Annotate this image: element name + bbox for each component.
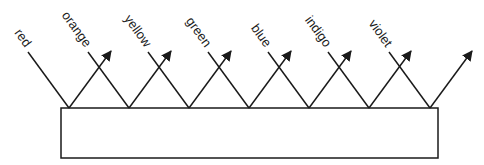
reflected-ray-arrow-orange <box>129 51 171 108</box>
incident-ray-green <box>208 52 249 108</box>
labels-group: redorangeyellowgreenblueindigoviolet <box>12 8 396 50</box>
reflection-diagram: redorangeyellowgreenblueindigoviolet <box>0 0 484 165</box>
incident-ray-blue <box>268 52 309 108</box>
ray-label-yellow: yellow <box>121 12 155 51</box>
reflected-ray-arrow-violet <box>430 51 472 108</box>
rays-group <box>28 51 472 108</box>
incident-ray-orange <box>88 52 129 108</box>
ray-label-green: green <box>183 14 215 50</box>
incident-ray-indigo <box>328 52 369 108</box>
reflected-ray-arrow-red <box>69 51 111 108</box>
reflected-ray-arrow-blue <box>309 51 351 108</box>
reflected-ray-arrow-green <box>249 51 291 108</box>
ray-label-violet: violet <box>366 16 396 50</box>
incident-ray-violet <box>389 52 430 108</box>
incident-ray-yellow <box>148 52 189 108</box>
reflected-ray-arrow-indigo <box>369 51 411 108</box>
reflecting-surface <box>61 108 438 158</box>
ray-label-orange: orange <box>59 8 95 50</box>
ray-label-red: red <box>12 26 35 50</box>
ray-label-blue: blue <box>248 21 275 50</box>
reflected-ray-arrow-yellow <box>189 51 231 108</box>
ray-label-indigo: indigo <box>302 13 335 50</box>
incident-ray-red <box>28 52 69 108</box>
diagram-canvas: redorangeyellowgreenblueindigoviolet <box>0 0 484 165</box>
